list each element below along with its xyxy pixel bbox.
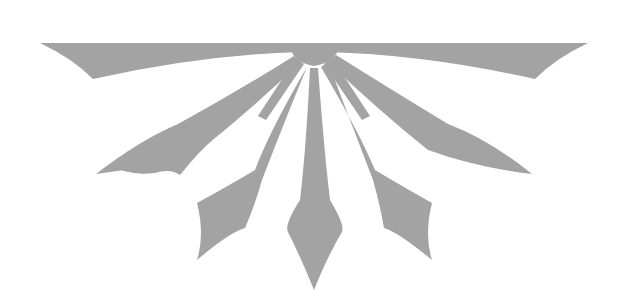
sunburst-shape [40,43,588,290]
sunburst-icon [0,0,628,308]
left-wing [40,43,300,79]
right-wing [328,43,588,79]
sunburst-ornament [0,0,628,308]
ray-3 [287,68,342,290]
